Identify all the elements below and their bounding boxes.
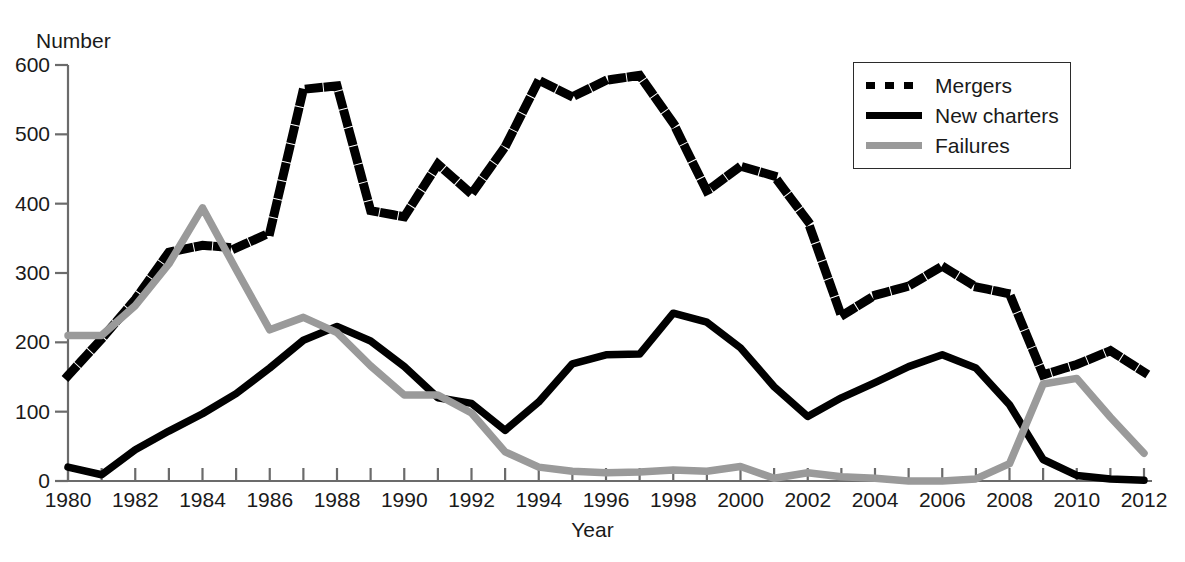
x-tick-label: 1992 bbox=[437, 489, 507, 510]
y-tick-label: 600 bbox=[0, 54, 50, 75]
y-tick-label: 0 bbox=[0, 470, 50, 491]
x-tick-label: 2006 bbox=[907, 489, 977, 510]
x-tick-label: 1994 bbox=[504, 489, 574, 510]
solid-black-swatch-icon bbox=[866, 106, 922, 124]
x-tick-label: 1998 bbox=[638, 489, 708, 510]
x-tick-label: 2012 bbox=[1109, 489, 1179, 510]
x-tick-label: 1984 bbox=[168, 489, 238, 510]
legend-label-new-charters: New charters bbox=[935, 105, 1059, 126]
x-tick-label: 2004 bbox=[840, 489, 910, 510]
x-tick-label: 2008 bbox=[975, 489, 1045, 510]
x-tick-label: 1986 bbox=[235, 489, 305, 510]
x-tick-label: 1996 bbox=[571, 489, 641, 510]
legend-label-mergers: Mergers bbox=[935, 75, 1012, 96]
x-tick-label: 1980 bbox=[33, 489, 103, 510]
bank-structure-line-chart: Number Year 0100200300400500600 19801982… bbox=[0, 0, 1185, 562]
x-tick-label: 1990 bbox=[369, 489, 439, 510]
legend-item-new-charters[interactable]: New charters bbox=[866, 100, 1060, 130]
x-tick-label: 1982 bbox=[100, 489, 170, 510]
y-tick-label: 200 bbox=[0, 331, 50, 352]
x-tick-label: 1988 bbox=[302, 489, 372, 510]
y-tick-label: 500 bbox=[0, 123, 50, 144]
solid-gray-swatch-icon bbox=[866, 136, 922, 154]
x-tick-label: 2010 bbox=[1042, 489, 1112, 510]
x-tick-label: 2000 bbox=[706, 489, 776, 510]
legend-label-failures: Failures bbox=[935, 135, 1010, 156]
legend-item-mergers[interactable]: Mergers bbox=[866, 70, 1060, 100]
dashed-black-swatch-icon bbox=[866, 76, 922, 94]
x-axis-title: Year bbox=[0, 519, 1185, 540]
y-axis-title: Number bbox=[36, 30, 111, 51]
series-line-new-charters bbox=[68, 313, 1144, 480]
y-tick-label: 300 bbox=[0, 262, 50, 283]
y-tick-label: 400 bbox=[0, 193, 50, 214]
chart-legend: Mergers New charters Failures bbox=[853, 62, 1071, 169]
y-tick-label: 100 bbox=[0, 401, 50, 422]
legend-item-failures[interactable]: Failures bbox=[866, 130, 1060, 160]
x-tick-label: 2002 bbox=[773, 489, 843, 510]
